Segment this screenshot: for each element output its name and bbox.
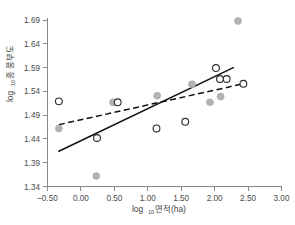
y-tick-label: 1.54 bbox=[24, 87, 40, 96]
data-point-open bbox=[153, 125, 160, 132]
y-axis-title-rest: 종 풍부도 bbox=[5, 45, 15, 79]
y-tick-label: 1.34 bbox=[24, 183, 40, 192]
x-tick-label: 0.00 bbox=[73, 194, 89, 203]
chart-axes bbox=[47, 18, 282, 187]
data-point-open bbox=[114, 99, 121, 106]
data-point-filled bbox=[235, 17, 242, 24]
scatter-chart-figure: –0.500.000.501.001.502.002.503.00 1.341.… bbox=[0, 0, 295, 225]
x-tick-label: 3.00 bbox=[274, 194, 290, 203]
data-point-filled bbox=[93, 173, 100, 180]
y-tick-label: 1.59 bbox=[24, 64, 40, 73]
data-point-open bbox=[94, 135, 101, 142]
data-point-filled bbox=[154, 92, 161, 99]
data-point-filled bbox=[55, 125, 62, 132]
x-tick-label: 1.50 bbox=[173, 194, 189, 203]
data-point-open bbox=[217, 76, 224, 83]
x-axis-ticks: –0.500.000.501.001.502.002.503.00 bbox=[37, 187, 290, 204]
data-point-open bbox=[240, 80, 247, 87]
y-axis-title-subscript: 10 bbox=[10, 80, 16, 86]
regression-lines bbox=[59, 68, 244, 152]
x-tick-label: 1.00 bbox=[140, 194, 156, 203]
y-tick-label: 1.39 bbox=[24, 159, 40, 168]
dashed-regression-line bbox=[59, 84, 244, 125]
data-point-open bbox=[182, 118, 189, 125]
chart-canvas: –0.500.000.501.001.502.002.503.00 1.341.… bbox=[0, 0, 295, 225]
data-points bbox=[55, 17, 246, 179]
y-tick-label: 1.69 bbox=[24, 16, 40, 25]
data-point-filled bbox=[206, 99, 213, 106]
x-tick-label: 0.50 bbox=[106, 194, 122, 203]
y-tick-label: 1.44 bbox=[24, 135, 40, 144]
x-tick-label: 2.00 bbox=[207, 194, 223, 203]
x-axis-title: log 10 면적(ha) bbox=[132, 204, 186, 215]
data-point-open bbox=[213, 65, 220, 72]
x-axis-title-rest: 면적(ha) bbox=[155, 204, 186, 214]
y-tick-label: 1.64 bbox=[24, 40, 40, 49]
x-tick-label: –0.50 bbox=[37, 194, 58, 203]
x-axis-title-subscript: 10 bbox=[148, 209, 154, 215]
y-tick-label: 1.49 bbox=[24, 111, 40, 120]
data-point-open bbox=[55, 98, 62, 105]
y-axis-ticks: 1.341.391.441.491.541.591.641.69 bbox=[24, 16, 47, 192]
data-point-filled bbox=[188, 81, 195, 88]
solid-regression-line bbox=[59, 68, 233, 152]
data-point-open bbox=[223, 76, 230, 83]
y-axis-title-base: log bbox=[5, 90, 15, 102]
y-axis-title: log 10 종 풍부도 bbox=[5, 45, 16, 102]
x-tick-label: 2.50 bbox=[240, 194, 256, 203]
x-axis-title-base: log bbox=[132, 204, 144, 214]
data-point-filled bbox=[217, 93, 224, 100]
